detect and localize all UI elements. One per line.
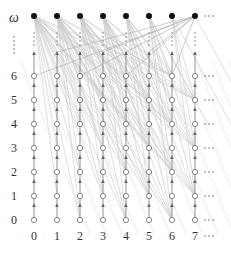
grid-node bbox=[146, 217, 151, 222]
omega-node bbox=[100, 13, 106, 19]
grid-node bbox=[100, 97, 105, 102]
grid-node bbox=[100, 169, 105, 174]
grid-node bbox=[54, 217, 59, 222]
grid-node bbox=[54, 145, 59, 150]
grid-node bbox=[192, 193, 197, 198]
grid-node bbox=[54, 97, 59, 102]
grid-node bbox=[100, 73, 105, 78]
omega-node bbox=[31, 13, 37, 19]
fan-edge bbox=[149, 16, 172, 124]
omega-node bbox=[54, 13, 60, 19]
grid-node bbox=[77, 145, 82, 150]
grid-node bbox=[192, 97, 197, 102]
grid-node bbox=[123, 97, 128, 102]
grid-node bbox=[54, 169, 59, 174]
omega-node bbox=[169, 13, 175, 19]
grid-node bbox=[169, 121, 174, 126]
grid-node bbox=[146, 73, 151, 78]
grid-node bbox=[169, 217, 174, 222]
column-label: 1 bbox=[54, 229, 60, 243]
row-label: 0 bbox=[11, 213, 17, 227]
grid-node bbox=[100, 121, 105, 126]
grid-node bbox=[77, 121, 82, 126]
fan-edge bbox=[196, 60, 231, 235]
grid-node bbox=[31, 193, 36, 198]
grid-node bbox=[100, 145, 105, 150]
ordinal-lattice-diagram: ω 012345601234567 bbox=[0, 0, 231, 254]
grid-node bbox=[123, 169, 128, 174]
grid-node bbox=[31, 73, 36, 78]
grid-node bbox=[54, 193, 59, 198]
column-label: 2 bbox=[77, 229, 83, 243]
column-label: 0 bbox=[31, 229, 37, 243]
grid-node bbox=[146, 121, 151, 126]
grid-node bbox=[146, 145, 151, 150]
grid-node bbox=[77, 217, 82, 222]
column-label: 4 bbox=[123, 229, 129, 243]
omega-node bbox=[146, 13, 152, 19]
row-label: 5 bbox=[11, 93, 17, 107]
grid-node bbox=[54, 121, 59, 126]
grid-node bbox=[31, 121, 36, 126]
fan-edge bbox=[148, 60, 218, 235]
grid-node bbox=[169, 97, 174, 102]
grid-node bbox=[54, 73, 59, 78]
grid-node bbox=[192, 121, 197, 126]
grid-node bbox=[77, 193, 82, 198]
grid-node bbox=[31, 217, 36, 222]
grid-node bbox=[192, 145, 197, 150]
fan-edge bbox=[172, 16, 195, 100]
grid-node bbox=[31, 169, 36, 174]
grid-node bbox=[100, 193, 105, 198]
fan-edge bbox=[228, 60, 231, 235]
grid-node bbox=[169, 145, 174, 150]
grid-node bbox=[77, 169, 82, 174]
row-label: 4 bbox=[11, 117, 17, 131]
omega-label: ω bbox=[9, 10, 19, 25]
grid-node bbox=[146, 169, 151, 174]
column-label: 3 bbox=[100, 229, 106, 243]
grid-node bbox=[77, 73, 82, 78]
omega-node bbox=[123, 13, 129, 19]
grid-node bbox=[192, 73, 197, 78]
grid-node bbox=[192, 217, 197, 222]
grid-node bbox=[192, 169, 197, 174]
grid-node bbox=[123, 217, 128, 222]
grid-node bbox=[146, 193, 151, 198]
column-label: 5 bbox=[146, 229, 152, 243]
fan-edge bbox=[172, 16, 231, 126]
grid-node bbox=[123, 73, 128, 78]
grid-node bbox=[146, 97, 151, 102]
grid-node bbox=[31, 145, 36, 150]
row-label: 1 bbox=[11, 189, 17, 203]
grid-node bbox=[169, 73, 174, 78]
grid-node bbox=[77, 97, 82, 102]
row-label: 6 bbox=[11, 69, 17, 83]
omega-node bbox=[192, 13, 198, 19]
grid-node bbox=[123, 193, 128, 198]
grid-node bbox=[169, 169, 174, 174]
row-label: 2 bbox=[11, 165, 17, 179]
grid-node bbox=[123, 145, 128, 150]
column-label: 6 bbox=[169, 229, 175, 243]
column-label: 7 bbox=[192, 229, 198, 243]
grid-node bbox=[100, 217, 105, 222]
fan-edge bbox=[84, 60, 154, 235]
grid-node bbox=[169, 193, 174, 198]
omega-node bbox=[77, 13, 83, 19]
grid-node bbox=[123, 121, 128, 126]
grid-node bbox=[31, 97, 36, 102]
row-label: 3 bbox=[11, 141, 17, 155]
